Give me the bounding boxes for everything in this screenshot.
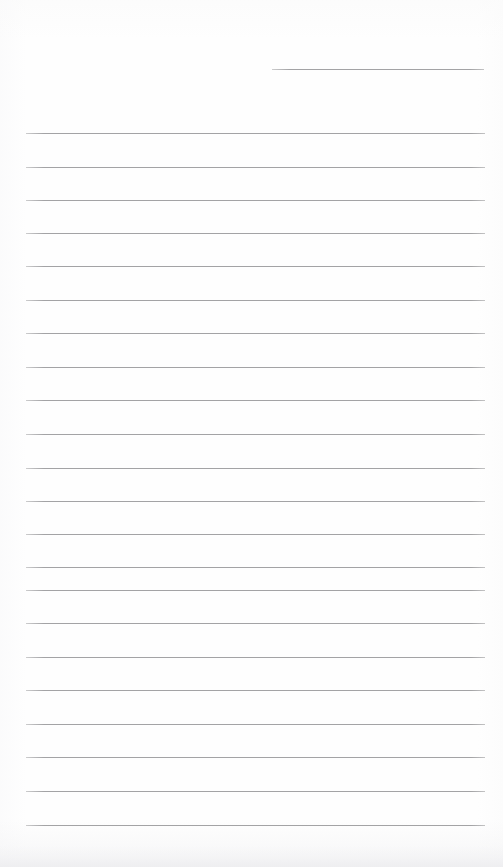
rule-line xyxy=(26,657,485,658)
rule-line xyxy=(26,167,485,168)
rule-line xyxy=(26,567,485,568)
rule-line xyxy=(26,534,485,535)
rule-line xyxy=(26,825,485,826)
rule-line xyxy=(26,333,485,334)
rule-line xyxy=(26,200,485,201)
rule-line xyxy=(26,133,485,134)
rule-line xyxy=(26,501,485,502)
rule-line xyxy=(26,791,485,792)
rule-line xyxy=(26,367,485,368)
rule-line xyxy=(26,300,485,301)
rule-line xyxy=(26,690,485,691)
rule-line xyxy=(26,400,485,401)
bottom-scan-artifact xyxy=(0,846,503,867)
notepad-page xyxy=(0,0,503,867)
rule-line xyxy=(26,590,485,591)
rule-line xyxy=(26,233,485,234)
rule-line xyxy=(26,468,485,469)
rule-line xyxy=(26,434,485,435)
rule-line-partial-top xyxy=(272,69,484,70)
rule-line xyxy=(26,757,485,758)
rule-line xyxy=(26,724,485,725)
rule-line xyxy=(26,266,485,267)
rule-line xyxy=(26,623,485,624)
